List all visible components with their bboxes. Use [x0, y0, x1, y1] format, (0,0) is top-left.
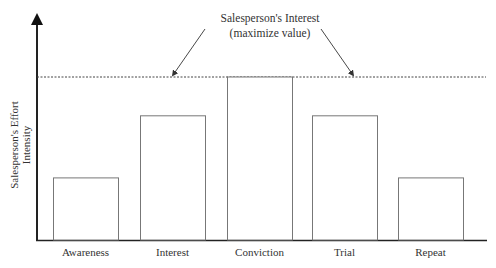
category-label-trial: Trial: [334, 246, 355, 258]
annotation-line-1: Salesperson's Interest: [221, 12, 321, 25]
category-label-repeat: Repeat: [415, 246, 446, 258]
annotation-arrow-right-icon: [321, 29, 353, 75]
category-labels: AwarenessInterestConvictionTrialRepeat: [62, 246, 446, 258]
bar-awareness: [54, 178, 119, 240]
svg-text:Intensity: Intensity: [20, 125, 32, 164]
annotation-arrow-left-icon: [173, 29, 205, 75]
y-axis-arrow-icon: [31, 13, 43, 25]
annotation-line-2: (maximize value): [230, 27, 311, 40]
category-label-interest: Interest: [156, 246, 189, 258]
svg-text:Salesperson's Effort: Salesperson's Effort: [8, 101, 20, 189]
bar-conviction: [228, 77, 293, 240]
bar-repeat: [399, 178, 464, 240]
bar-trial: [313, 116, 378, 240]
sales-effort-chart: Salesperson's Effort Intensity Salespers…: [0, 0, 496, 268]
bars: [54, 77, 464, 240]
y-axis-label: Salesperson's Effort Intensity: [8, 101, 32, 189]
bar-interest: [141, 116, 206, 240]
category-label-conviction: Conviction: [235, 246, 284, 258]
category-label-awareness: Awareness: [62, 246, 109, 258]
